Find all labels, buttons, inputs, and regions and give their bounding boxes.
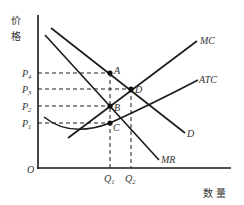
demand-curve [51,28,185,133]
svg-text:P4: P4 [21,68,32,80]
p1-label: P1 [21,118,31,130]
q2-label: Q2 [125,173,136,185]
origin-label: O [27,164,34,175]
price-axis-title-1: 价 [11,15,21,26]
svg-text:P3: P3 [21,84,32,96]
svg-text:P2: P2 [21,101,32,113]
point-c [107,120,112,125]
average-total-cost-curve [44,80,198,129]
point-b-label: B [114,102,120,113]
mr-label: MR [160,154,175,165]
svg-text:P1: P1 [21,118,31,130]
marginal-revenue-curve [45,35,159,160]
point-c-label: C [113,122,120,133]
p3-label: P3 [21,84,32,96]
point-a-label: A [113,65,121,76]
p2-label: P2 [21,101,32,113]
monopoly-diagram: A D B C MC ATC D MR P4 P3 P2 P1 Q1 Q2 O … [0,0,244,205]
point-a [107,70,112,75]
p4-label: P4 [21,68,32,80]
price-axis-title-2: 格 [11,30,21,42]
point-d-label: D [134,84,143,95]
svg-text:Q1: Q1 [104,173,114,185]
q1-label: Q1 [104,173,114,185]
mc-label: MC [199,35,215,46]
point-b [107,103,112,108]
demand-label: D [186,128,195,139]
quantity-axis-title: 数 量 [203,187,226,199]
svg-text:Q2: Q2 [125,173,136,185]
point-d [128,86,133,91]
atc-label: ATC [198,74,217,85]
